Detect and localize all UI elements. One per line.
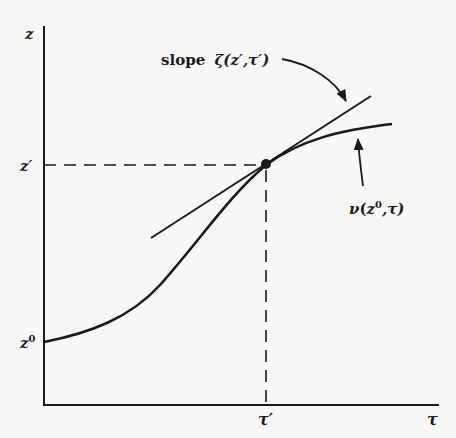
tangent-line [151, 96, 371, 238]
y-axis-label: z [24, 25, 34, 43]
z-prime-label: z′ [19, 157, 33, 175]
tau-prime-label: τ′ [258, 410, 274, 429]
slope-arrow [282, 59, 346, 101]
curve-annotation: ν(z0,τ) [349, 199, 404, 218]
nu-curve [44, 124, 392, 342]
tangent-point [261, 159, 271, 169]
z-zero-label: z0 [19, 333, 36, 352]
curve-arrow [358, 139, 363, 186]
x-axis-label: τ [427, 410, 438, 429]
slope-annotation: slope ζ(z′,τ′) [161, 51, 269, 69]
diagram-canvas: z τ z′ z0 τ′ slope ζ(z′,τ′) ν(z0,τ) [0, 0, 456, 438]
